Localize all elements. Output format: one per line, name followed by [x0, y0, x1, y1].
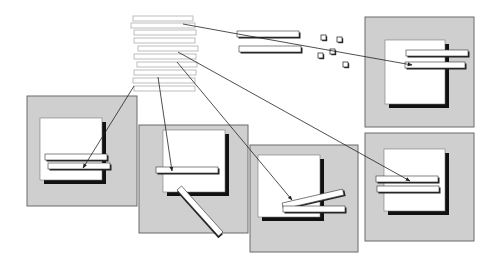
window	[385, 40, 445, 104]
panel-center-right	[250, 145, 358, 252]
floating-bars	[237, 31, 303, 54]
bar	[45, 154, 109, 162]
stack-bar	[137, 62, 197, 67]
small-square	[321, 35, 326, 40]
bar	[48, 163, 112, 171]
stack-bar	[131, 23, 195, 28]
diagram-canvas	[0, 0, 496, 267]
bar	[405, 62, 467, 70]
panel-center-left	[139, 125, 248, 238]
panel-bottom-right	[365, 133, 474, 241]
bar	[156, 167, 220, 175]
window	[163, 130, 225, 192]
small-squares-cluster	[318, 35, 349, 68]
stack-bar	[138, 46, 198, 51]
bar	[283, 206, 347, 214]
small-square	[318, 53, 323, 58]
stack-bar	[133, 16, 193, 21]
small-square	[343, 62, 348, 67]
window	[40, 118, 102, 180]
stack-bar	[134, 38, 195, 43]
bar	[406, 50, 470, 58]
stack-bar	[134, 86, 195, 91]
stack-bar	[133, 78, 195, 83]
floating-bar	[237, 31, 299, 37]
small-square	[337, 37, 342, 42]
floating-bar	[239, 46, 301, 52]
panel-left	[27, 96, 137, 206]
stack-bar	[134, 30, 196, 35]
bar	[377, 186, 441, 194]
panel-top-right	[365, 17, 474, 127]
bar-stack	[131, 16, 198, 91]
